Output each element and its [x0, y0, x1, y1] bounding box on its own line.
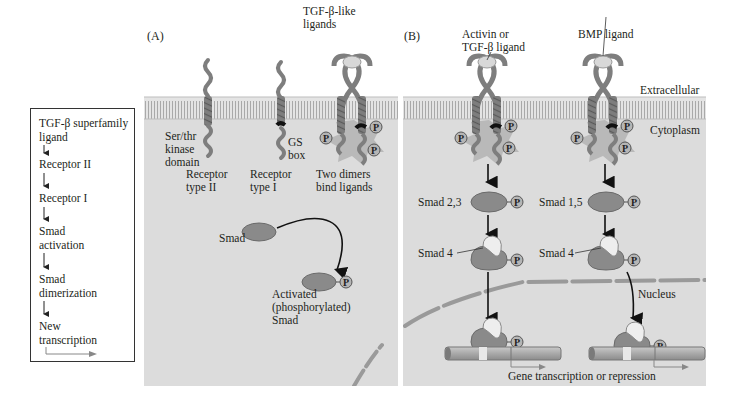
svg-text:P: P	[373, 122, 379, 133]
label-text: type II	[186, 181, 228, 194]
smad-protein	[242, 223, 276, 241]
label-text: Activin or	[462, 28, 525, 41]
label-text: (phosphorylated)	[272, 301, 351, 314]
cell-membrane	[403, 97, 706, 119]
svg-text:P: P	[323, 133, 329, 144]
gs-box-label: GS box	[288, 136, 305, 162]
smad-1-5-label: Smad 1,5	[539, 196, 582, 209]
label-text: kinase	[165, 143, 200, 156]
gs-box-icon	[277, 123, 285, 125]
label-text: Smad	[272, 314, 351, 327]
kinase-domain-label: Ser/thr kinase domain	[165, 130, 200, 169]
svg-text:P: P	[371, 145, 377, 156]
smad-2-3-label: Smad 2,3	[418, 196, 461, 209]
label-text: TGF-β-like	[303, 5, 355, 18]
smad-4-left-label: Smad 4	[418, 247, 453, 260]
dna-right	[589, 347, 705, 360]
smad-4-right-label: Smad 4	[539, 247, 574, 260]
label-text: Ser/thr	[165, 130, 200, 143]
svg-text:P: P	[343, 277, 349, 288]
label-text: Receptor	[186, 168, 228, 181]
smad-label: Smad	[219, 232, 245, 245]
tgf-like-ligands-label: TGF-β-like ligands	[303, 5, 355, 31]
label-text: GS	[288, 136, 305, 149]
pathway-flowchart: TGF-β superfamily ligand Receptor II Rec…	[30, 108, 135, 362]
label-text: ligands	[303, 18, 355, 31]
cytoplasm-label: Cytoplasm	[650, 124, 700, 137]
activated-smad-label: Activated (phosphorylated) Smad	[272, 288, 351, 327]
receptor-type-ii-label: Receptor type II	[186, 168, 228, 194]
receptor-type-i-label: Receptor type I	[250, 168, 292, 194]
label-text: Activated	[272, 288, 351, 301]
two-dimers-label: Two dimers bind ligands	[316, 168, 373, 194]
label-text: TGF-β ligand	[462, 41, 525, 54]
label-text: box	[288, 149, 305, 162]
label-text: Two dimers	[316, 168, 373, 181]
nucleus-label: Nucleus	[638, 288, 676, 301]
label-text: type I	[250, 181, 292, 194]
gene-transcription-label: Gene transcription or repression	[508, 370, 656, 383]
dna-left	[445, 347, 561, 360]
label-text: bind ligands	[316, 181, 373, 194]
ligand-shape	[343, 56, 361, 68]
label-text: Receptor	[250, 168, 292, 181]
extracellular-label: Extracellular	[640, 84, 699, 97]
transcription-arrow-icon	[46, 347, 91, 354]
activin-ligand-label: Activin or TGF-β ligand	[462, 28, 525, 54]
panel-b-diagram: P P P P P	[403, 0, 706, 386]
flow-arrows	[31, 109, 136, 363]
bmp-ligand-label: BMP ligand	[578, 28, 633, 41]
